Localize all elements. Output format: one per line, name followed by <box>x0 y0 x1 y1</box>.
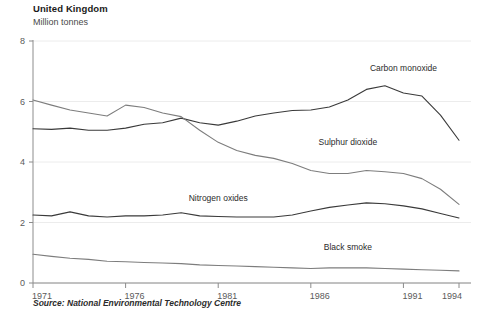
y-tick-label-0: 0 <box>20 278 25 288</box>
source-note: Source: National Environmental Technolog… <box>33 298 241 308</box>
series-line-carbon-monoxide <box>33 86 459 140</box>
series-line-nitrogen-oxides <box>33 203 459 218</box>
chart-container: United Kingdom Million tonnes 02468 1971… <box>0 0 478 314</box>
series-line-group <box>33 86 459 271</box>
y-tick-label-6: 6 <box>20 97 25 107</box>
line-chart-plot: 02468 197119761981198619911994 Carbon mo… <box>0 0 478 314</box>
x-tick-label-1994: 1994 <box>442 291 462 301</box>
gridline-group <box>33 41 471 283</box>
y-axis-tick-group: 02468 <box>20 36 33 288</box>
x-tick-label-1986: 1986 <box>310 291 330 301</box>
series-label-black-smoke: Black smoke <box>324 242 372 252</box>
series-line-black-smoke <box>33 254 459 271</box>
y-tick-label-2: 2 <box>20 218 25 228</box>
series-line-sulphur-dioxide <box>33 100 459 204</box>
y-tick-label-8: 8 <box>20 36 25 46</box>
series-label-nitrogen-oxides: Nitrogen oxides <box>189 193 248 203</box>
x-tick-label-1991: 1991 <box>402 291 422 301</box>
series-label-sulphur-dioxide: Sulphur dioxide <box>319 137 378 147</box>
y-tick-label-4: 4 <box>20 157 25 167</box>
series-label-carbon-monoxide: Carbon monoxide <box>370 63 437 73</box>
